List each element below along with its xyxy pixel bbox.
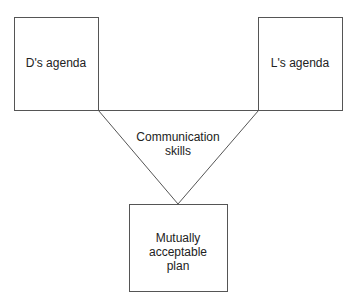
plan-label: Mutually acceptable plan	[129, 231, 227, 273]
right-agenda-label: L's agenda	[258, 56, 342, 70]
left-agenda-label: D's agenda	[14, 56, 98, 70]
communication-skills-label: Communication skills	[118, 130, 238, 158]
